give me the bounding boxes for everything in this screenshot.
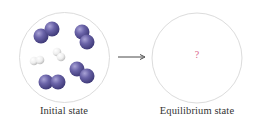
- reaction-arrow-icon: [118, 55, 145, 60]
- initial-state-label: Initial state: [24, 105, 104, 116]
- diagram-stage: ? Initial state Equilibrium state: [0, 0, 259, 123]
- equilibrium-state-label: Equilibrium state: [152, 105, 242, 116]
- unknown-question-mark: ?: [190, 49, 204, 60]
